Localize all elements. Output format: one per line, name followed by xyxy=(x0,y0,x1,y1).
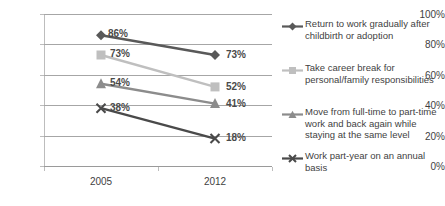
data-label-s1-2005: 73% xyxy=(110,49,130,59)
legend-x-icon xyxy=(282,150,303,161)
data-label-s2-2005: 54% xyxy=(110,78,130,88)
data-label-s3-2012: 18% xyxy=(226,133,246,143)
legend-item-career-break[interactable]: Take career break for personal/family re… xyxy=(282,62,445,85)
legend-item-full-to-part-time[interactable]: Move from full-time to part-time work an… xyxy=(282,106,445,141)
data-label-s1-2012: 52% xyxy=(226,82,246,92)
legend-label-work-part-year: Work part-year on an annual basis xyxy=(305,150,445,173)
line-chart: 100% 80% 60% 40% 20% 0% 2005 2012 xyxy=(0,0,445,206)
legend-diamond-icon xyxy=(282,18,303,29)
data-label-s2-2012: 41% xyxy=(226,99,246,109)
legend-label-career-break: Take career break for personal/family re… xyxy=(305,62,445,85)
legend-item-work-part-year[interactable]: Work part-year on an annual basis xyxy=(282,150,445,173)
data-label-s0-2005: 86% xyxy=(108,29,128,39)
legend-triangle-icon xyxy=(282,106,303,117)
legend-label-full-to-part-time: Move from full-time to part-time work an… xyxy=(305,106,445,141)
legend-square-icon xyxy=(282,62,303,73)
data-label-s0-2012: 73% xyxy=(226,50,246,60)
data-label-s3-2005: 38% xyxy=(110,103,130,113)
legend-item-return-to-work[interactable]: Return to work gradually after childbirt… xyxy=(282,18,445,41)
legend-label-return-to-work: Return to work gradually after childbirt… xyxy=(305,18,445,41)
